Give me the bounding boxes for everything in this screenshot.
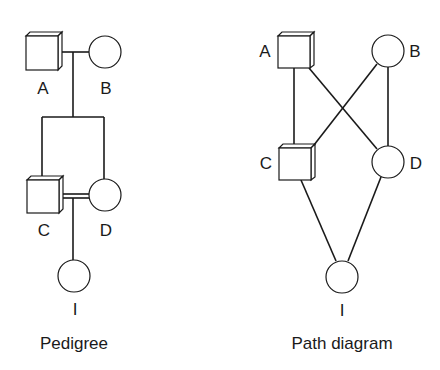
pedigree-label-i: I — [73, 300, 78, 319]
square-top-face — [27, 176, 63, 180]
pedigree-label-d: D — [100, 221, 112, 240]
male-square-icon — [26, 36, 58, 70]
male-square-icon — [27, 180, 59, 213]
path-node-d — [372, 146, 404, 178]
edge-d-i — [348, 177, 381, 261]
path-label-i: I — [340, 301, 345, 320]
edge-c-i — [301, 180, 336, 261]
pedigree-label-b: B — [100, 79, 111, 98]
pedigree-caption: Pedigree — [40, 334, 108, 353]
path-diagram-caption: Path diagram — [291, 334, 392, 353]
pedigree-node-b — [89, 36, 121, 68]
path-label-a: A — [259, 42, 271, 61]
path-label-c: C — [260, 154, 272, 173]
pedigree-node-i — [58, 260, 90, 292]
pedigree-node-d — [89, 179, 121, 211]
edge-b-c — [314, 64, 377, 145]
path-node-c — [279, 144, 315, 180]
pedigree-node-a — [26, 32, 62, 70]
diagram-canvas: A B C D I Pedigree A — [0, 0, 440, 370]
path-label-d: D — [410, 154, 422, 173]
square-top-face — [279, 144, 315, 148]
pedigree: A B C D I Pedigree — [26, 32, 121, 353]
path-label-b: B — [409, 42, 420, 61]
pedigree-label-c: C — [38, 221, 50, 240]
square-side-face — [310, 32, 314, 68]
path-node-a — [278, 32, 314, 68]
square-side-face — [311, 144, 315, 180]
square-icon — [279, 148, 311, 180]
pedigree-label-a: A — [37, 79, 49, 98]
path-node-b — [372, 35, 404, 67]
pedigree-node-c — [27, 176, 63, 213]
square-icon — [278, 36, 310, 68]
path-diagram: A B C D I Path diagram — [259, 32, 422, 353]
path-node-i — [326, 261, 358, 293]
